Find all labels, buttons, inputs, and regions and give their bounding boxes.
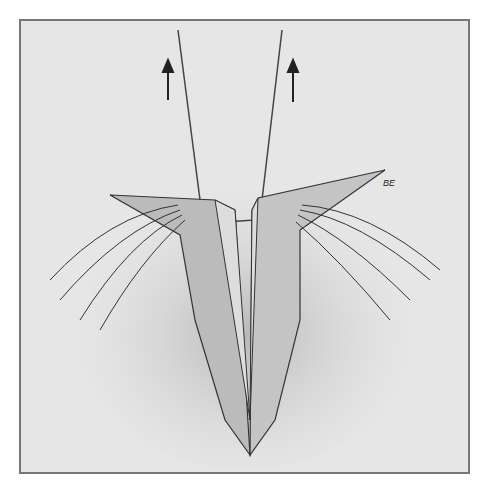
up-arrow-right-icon xyxy=(288,60,298,102)
up-arrow-left-icon xyxy=(163,60,173,100)
artist-signature: BE xyxy=(383,178,395,188)
surgical-illustration xyxy=(0,0,489,496)
